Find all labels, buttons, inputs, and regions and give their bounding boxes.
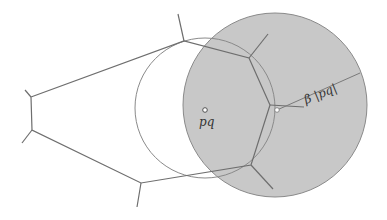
- voronoi-diagram: pq β |pq|: [0, 0, 387, 220]
- point-pq: [203, 108, 208, 113]
- boundary-point: [275, 108, 280, 113]
- label-pq: pq: [199, 115, 215, 129]
